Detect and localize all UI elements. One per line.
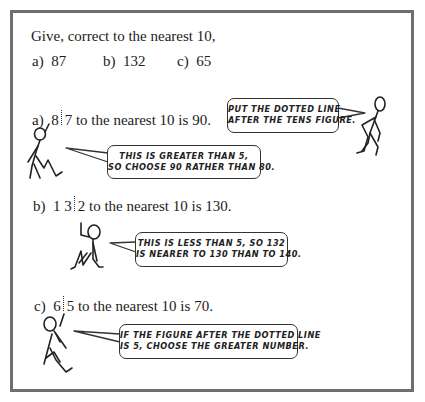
bubble-text-line: IS NEARER TO 130 THAN TO 140. — [136, 249, 287, 260]
stick-figure-b — [69, 223, 119, 283]
speech-bubble-2: THIS IS GREATER THAN 5, SO CHOOSE 90 RAT… — [107, 145, 261, 179]
bubble-text-line: IF THE FIGURE AFTER THE DOTTED LINE — [120, 330, 297, 341]
speech-bubble-3: THIS IS LESS THAN 5, SO 132 IS NEARER TO… — [135, 232, 288, 267]
stick-figure-c — [40, 314, 100, 379]
bubble-text-line: THIS IS GREATER THAN 5, — [108, 151, 260, 162]
bubble-text-line: THIS IS LESS THAN 5, SO 132 — [136, 238, 287, 249]
speech-bubble-1: PUT THE DOTTED LINE AFTER THE TENS FIGUR… — [227, 98, 339, 133]
bubble-text-line: SO CHOOSE 90 RATHER THAN 80. — [108, 162, 260, 173]
stick-figure-a — [26, 124, 86, 184]
stick-figure-sitting-right — [340, 95, 400, 165]
bubble-text-line: PUT THE DOTTED LINE — [228, 104, 338, 115]
bubble-text-line: AFTER THE TENS FIGURE. — [228, 115, 338, 126]
speech-bubble-4: IF THE FIGURE AFTER THE DOTTED LINE IS 5… — [119, 324, 298, 359]
bubble-text-line: IS 5, CHOOSE THE GREATER NUMBER. — [120, 341, 297, 352]
